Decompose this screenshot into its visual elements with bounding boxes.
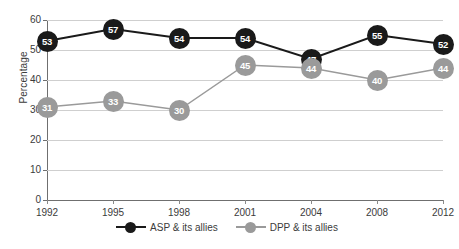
data-point-asp-2001[interactable]: 54	[235, 28, 256, 49]
x-tick-label-2004: 2004	[281, 208, 341, 218]
y-tick-label-0: 0	[13, 195, 41, 205]
data-point-dpp-2008[interactable]: 40	[367, 70, 388, 91]
legend-label-asp: ASP & its allies	[150, 222, 218, 233]
legend-item-asp[interactable]: ASP & its allies	[116, 221, 218, 233]
x-tick-label-1992: 1992	[17, 208, 77, 218]
data-point-dpp-2001[interactable]: 45	[235, 55, 256, 76]
data-point-asp-1992[interactable]: 53	[37, 31, 58, 52]
x-tick-label-2008: 2008	[347, 208, 407, 218]
legend-item-dpp[interactable]: DPP & its allies	[236, 221, 338, 233]
data-point-dpp-2004[interactable]: 44	[301, 58, 322, 79]
y-tick-label-50: 50	[13, 45, 41, 55]
x-tick-mark-1995	[113, 200, 114, 204]
x-tick-label-1995: 1995	[83, 208, 143, 218]
legend-marker-dpp-icon	[236, 221, 266, 233]
data-point-asp-1998[interactable]: 54	[169, 28, 190, 49]
x-tick-mark-2012	[443, 200, 444, 204]
y-tick-label-60: 60	[13, 15, 41, 25]
x-tick-mark-2001	[245, 200, 246, 204]
x-tick-mark-2008	[377, 200, 378, 204]
y-tick-label-20: 20	[13, 135, 41, 145]
x-tick-mark-1992	[47, 200, 48, 204]
chart-legend: ASP & its allies DPP & its allies	[0, 221, 454, 233]
x-tick-label-2001: 2001	[215, 208, 275, 218]
data-point-dpp-1995[interactable]: 33	[103, 91, 124, 112]
data-point-asp-2008[interactable]: 55	[367, 25, 388, 46]
plot-area: 0102030405060 19921995199820012004200820…	[47, 20, 443, 200]
x-tick-label-2012: 2012	[413, 208, 459, 218]
caption-fragment	[58, 240, 288, 247]
legend-marker-asp-icon	[116, 221, 146, 233]
data-point-asp-2012[interactable]: 52	[433, 34, 454, 55]
data-point-dpp-1998[interactable]: 30	[169, 100, 190, 121]
x-tick-mark-1998	[179, 200, 180, 204]
data-point-dpp-2012[interactable]: 44	[433, 58, 454, 79]
legend-label-dpp: DPP & its allies	[270, 222, 338, 233]
x-tick-label-1998: 1998	[149, 208, 209, 218]
y-tick-label-10: 10	[13, 165, 41, 175]
y-tick-label-40: 40	[13, 75, 41, 85]
data-point-asp-1995[interactable]: 57	[103, 19, 124, 40]
x-tick-mark-2004	[311, 200, 312, 204]
data-point-dpp-1992[interactable]: 31	[37, 97, 58, 118]
